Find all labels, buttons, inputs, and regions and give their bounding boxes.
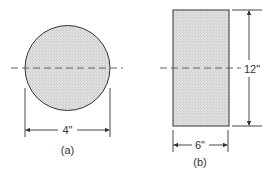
rectangle-height-label: 12" bbox=[244, 63, 260, 75]
figure-b-caption: (b) bbox=[193, 156, 206, 168]
cross-section-diagram: 4" (a) 12" 6" (b) bbox=[0, 0, 267, 172]
rectangle-width-label: 6" bbox=[195, 139, 205, 151]
figure-b-rectangle-section: 12" 6" (b) bbox=[160, 10, 263, 168]
circle-diameter-label: 4" bbox=[62, 124, 72, 136]
figure-a-circle-section: 4" (a) bbox=[11, 26, 123, 157]
figure-a-caption: (a) bbox=[61, 144, 74, 156]
